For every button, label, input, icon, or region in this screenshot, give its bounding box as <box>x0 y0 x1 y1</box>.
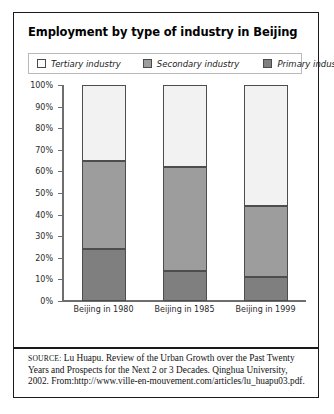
y-axis-tick-label: 50% <box>35 189 53 198</box>
legend-label-tertiary: Tertiary industry <box>51 59 121 69</box>
bar-segment-secondary[interactable] <box>82 161 126 250</box>
source-divider <box>14 347 318 349</box>
y-axis-tick-label: 100% <box>30 81 53 90</box>
y-axis-tick-label: 20% <box>35 253 53 262</box>
bar-segment-tertiary[interactable] <box>82 85 126 161</box>
x-axis-category-label: Beijing in 1980 <box>63 305 144 314</box>
legend-label-secondary: Secondary industry <box>157 59 240 69</box>
y-axis-tick-label: 60% <box>35 167 53 176</box>
y-axis-tick-mark <box>58 279 62 280</box>
y-axis-tick-mark <box>58 301 62 302</box>
bar-segment-tertiary[interactable] <box>244 85 288 206</box>
y-axis-tick-label: 90% <box>35 102 53 111</box>
legend-item-primary: Primary industry <box>263 54 334 73</box>
y-axis-tick-mark <box>58 236 62 237</box>
legend-label-primary: Primary industry <box>277 59 334 69</box>
bar-segment-secondary[interactable] <box>163 167 207 271</box>
y-axis-tick-label: 0% <box>40 297 53 306</box>
x-axis-category-label: Beijing in 1985 <box>144 305 225 314</box>
source-text: Lu Huapu. Review of the Urban Growth ove… <box>28 353 305 386</box>
bar-segment-secondary[interactable] <box>244 206 288 277</box>
bar-segment-primary[interactable] <box>163 271 207 301</box>
source-prefix: SOURCE: <box>28 354 61 363</box>
x-axis-category-label: Beijing in 1999 <box>225 305 306 314</box>
bar-segment-primary[interactable] <box>82 249 126 301</box>
chart-legend: Tertiary industry Secondary industry Pri… <box>28 53 302 74</box>
legend-swatch-tertiary-icon <box>37 59 46 68</box>
y-axis-tick-mark <box>58 85 62 86</box>
y-axis-tick-label: 70% <box>35 145 53 154</box>
page-title: Employment by type of industry in Beijin… <box>28 25 297 39</box>
source-note: SOURCE: Lu Huapu. Review of the Urban Gr… <box>28 353 306 388</box>
stacked-bar[interactable] <box>82 85 126 301</box>
legend-item-secondary: Secondary industry <box>143 54 240 73</box>
bar-segment-primary[interactable] <box>244 277 288 301</box>
y-axis-tick-label: 80% <box>35 124 53 133</box>
bar-segment-tertiary[interactable] <box>163 85 207 167</box>
chart-card: Employment by type of industry in Beijin… <box>13 12 319 398</box>
legend-swatch-secondary-icon <box>143 59 152 68</box>
y-axis-tick-label: 30% <box>35 232 53 241</box>
legend-swatch-primary-icon <box>263 59 272 68</box>
y-axis-tick-mark <box>58 150 62 151</box>
y-axis-tick-mark <box>58 171 62 172</box>
chart-plot-area: 100%90%80%70%60%50%40%30%20%10%0% Beijin… <box>28 85 306 333</box>
stacked-bar[interactable] <box>244 85 288 301</box>
y-axis-tick-mark <box>58 215 62 216</box>
y-axis-tick-label: 10% <box>35 275 53 284</box>
y-axis-tick-mark <box>58 107 62 108</box>
y-axis-tick-mark <box>58 193 62 194</box>
y-axis-tick-label: 40% <box>35 210 53 219</box>
y-axis-labels: 100%90%80%70%60%50%40%30%20%10%0% <box>28 85 58 301</box>
legend-item-tertiary: Tertiary industry <box>37 54 121 73</box>
bar-group: Beijing in 1980Beijing in 1985Beijing in… <box>63 85 306 301</box>
y-axis-tick-mark <box>58 258 62 259</box>
stacked-bar[interactable] <box>163 85 207 301</box>
y-axis-tick-mark <box>58 128 62 129</box>
